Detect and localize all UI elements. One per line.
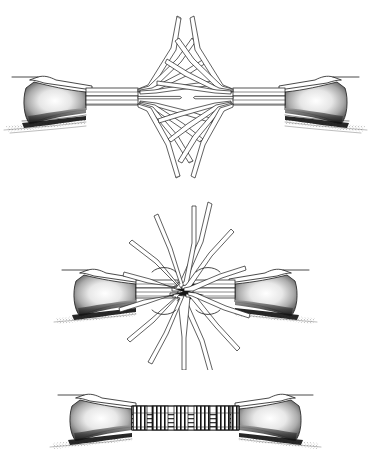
panel-strands-interlaced: [0, 190, 371, 370]
panel-finished-served-splice: [0, 370, 371, 458]
right-fan-strands-lower: [158, 101, 233, 178]
left-core-block-lower: [86, 96, 138, 105]
left-fan-strands-lower: [138, 101, 213, 178]
left-rope-end-bottom: [50, 394, 136, 449]
left-core-strands: [86, 88, 138, 105]
right-core-strands: [233, 88, 285, 105]
figure-root: [0, 0, 371, 458]
left-center-strand: [138, 96, 182, 98]
serving-barrel: [132, 406, 239, 430]
panel-unlaid-rope-ends: [0, 0, 371, 190]
right-center-strand: [193, 96, 233, 98]
right-rope-end-bottom: [235, 394, 321, 449]
